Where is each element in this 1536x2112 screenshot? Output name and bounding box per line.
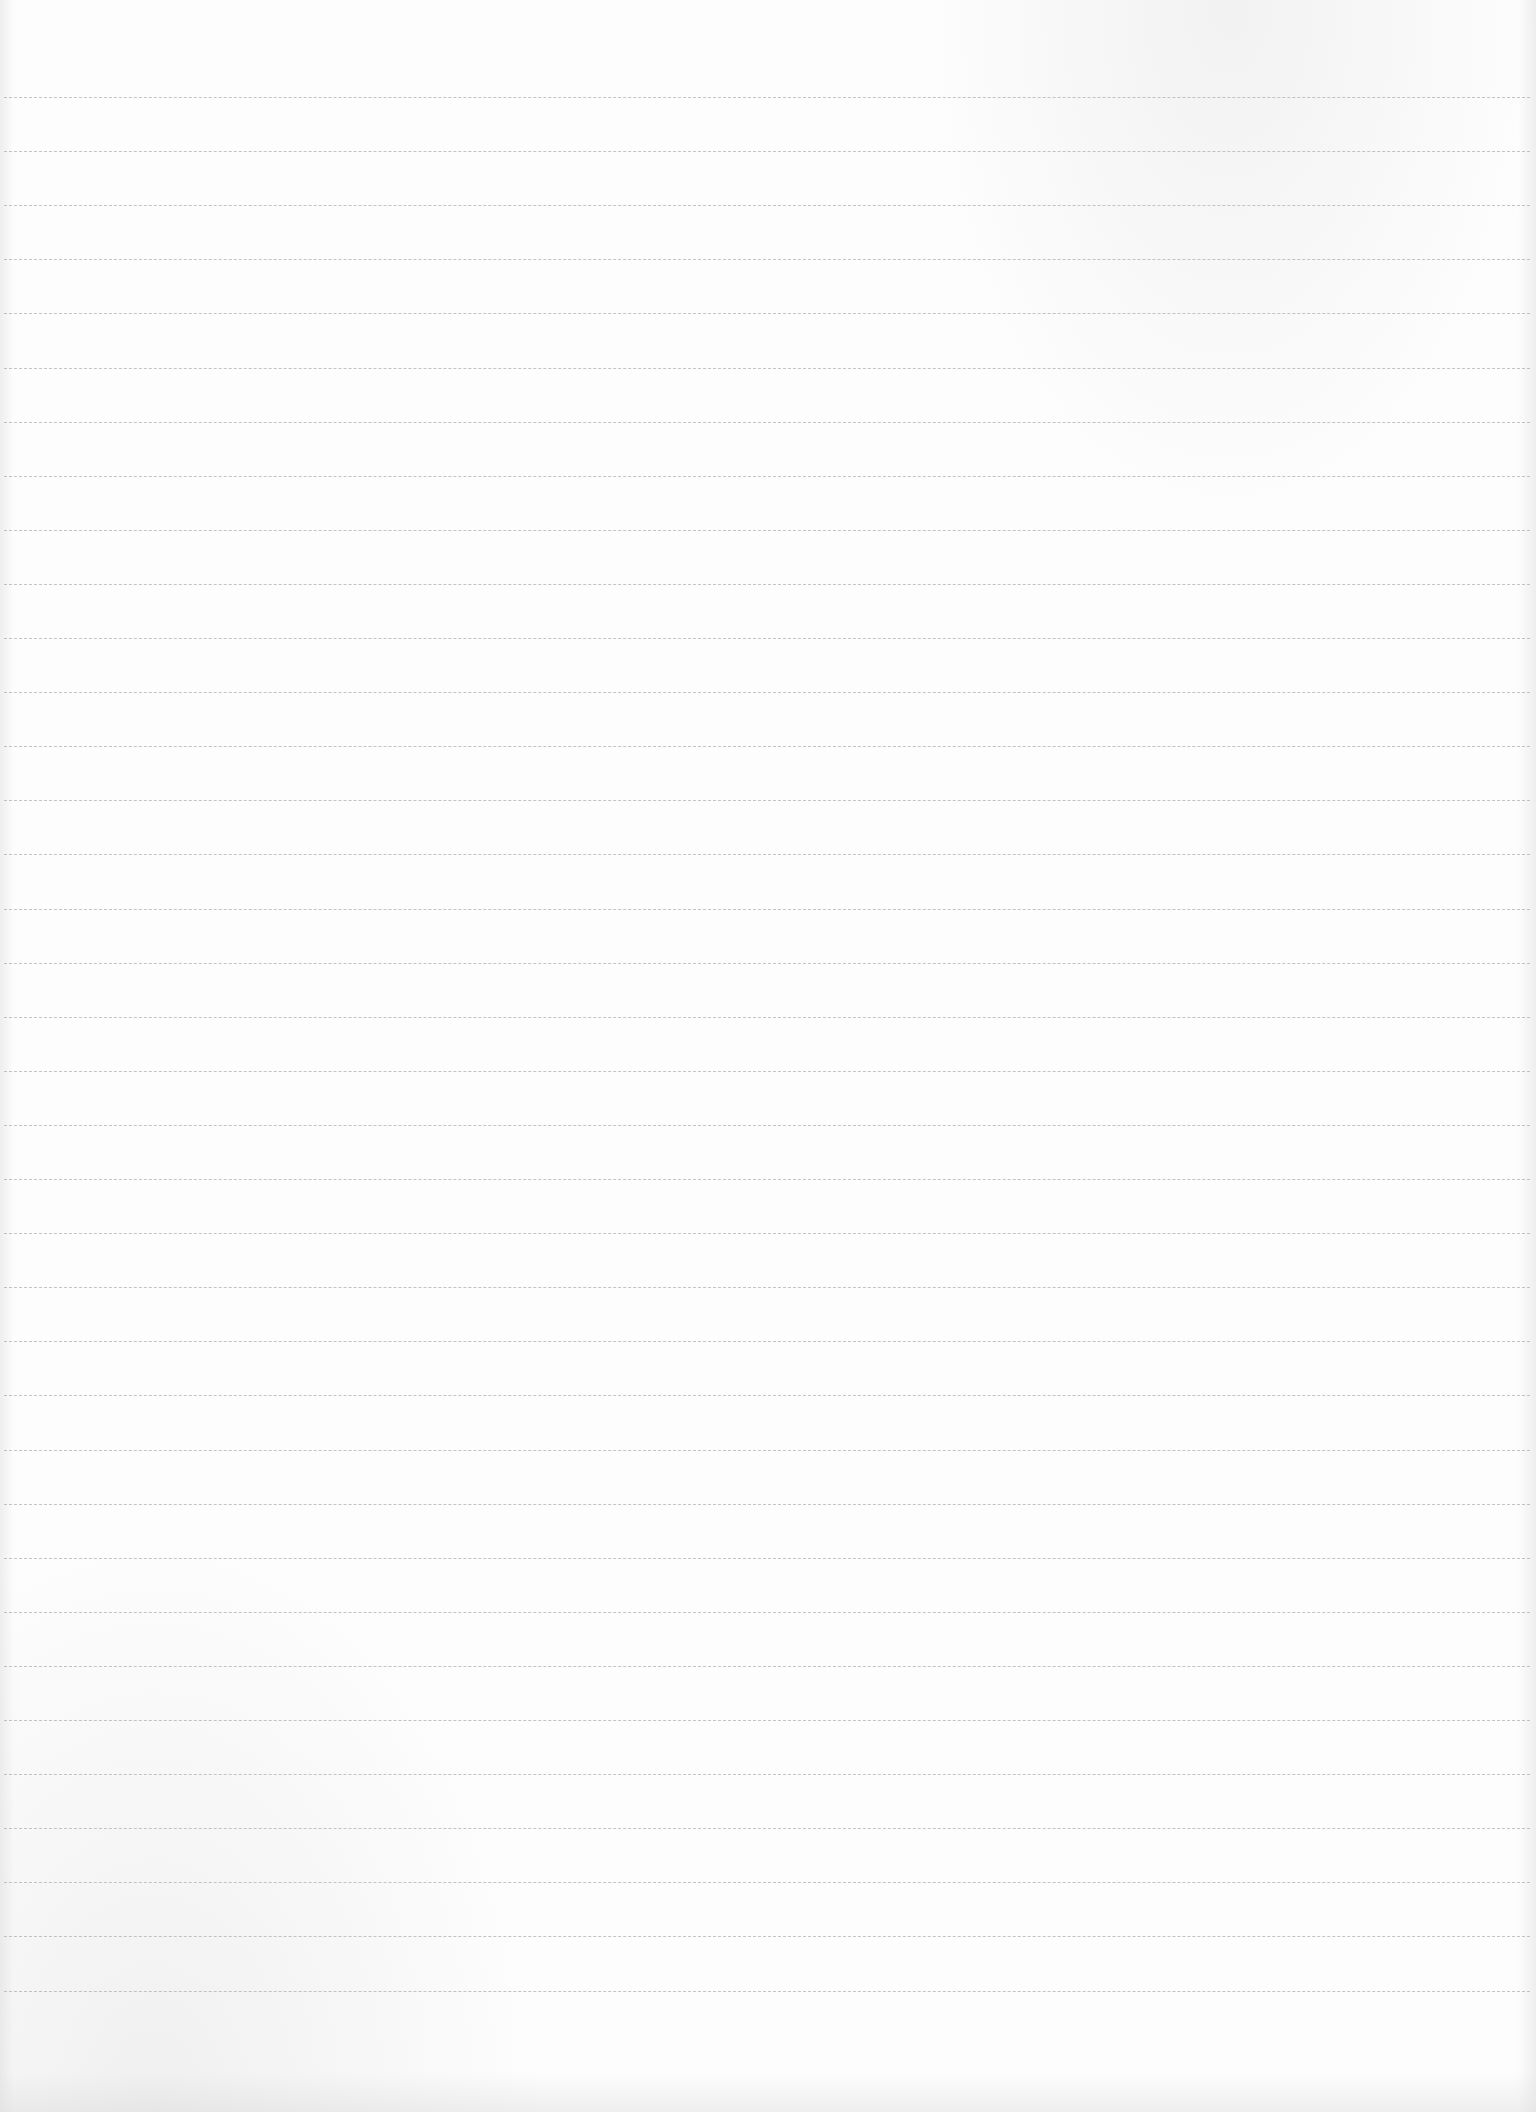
- ruled-line: [4, 746, 1530, 747]
- ruled-line: [4, 909, 1530, 910]
- ruled-line: [4, 151, 1530, 152]
- ruled-line: [4, 1991, 1530, 1992]
- ruled-line: [4, 854, 1530, 855]
- ruled-line: [4, 1558, 1530, 1559]
- ruled-line: [4, 1179, 1530, 1180]
- ruled-line: [4, 1071, 1530, 1072]
- ruled-line: [4, 1936, 1530, 1937]
- ruled-line: [4, 584, 1530, 585]
- ruled-line: [4, 422, 1530, 423]
- ruled-line: [4, 1828, 1530, 1829]
- ruled-line: [4, 1666, 1530, 1667]
- ruled-line: [4, 1882, 1530, 1883]
- ruled-line: [4, 1450, 1530, 1451]
- ruled-line: [4, 1233, 1530, 1234]
- ruled-line: [4, 638, 1530, 639]
- ruled-line: [4, 1612, 1530, 1613]
- ruled-line: [4, 1287, 1530, 1288]
- ruled-line: [4, 259, 1530, 260]
- ruled-line: [4, 97, 1530, 98]
- ruled-line: [4, 692, 1530, 693]
- ruled-line: [4, 205, 1530, 206]
- ruled-line: [4, 368, 1530, 369]
- ruled-line: [4, 1720, 1530, 1721]
- ruled-line: [4, 963, 1530, 964]
- ruled-line: [4, 1017, 1530, 1018]
- ruled-line: [4, 1774, 1530, 1775]
- ruled-line: [4, 530, 1530, 531]
- ruled-line: [4, 476, 1530, 477]
- ruled-line: [4, 313, 1530, 314]
- ruled-line: [4, 1504, 1530, 1505]
- lined-paper-sheet: [0, 0, 1536, 2112]
- ruled-line: [4, 1395, 1530, 1396]
- ruled-line: [4, 1341, 1530, 1342]
- ruled-line: [4, 800, 1530, 801]
- ruled-line: [4, 1125, 1530, 1126]
